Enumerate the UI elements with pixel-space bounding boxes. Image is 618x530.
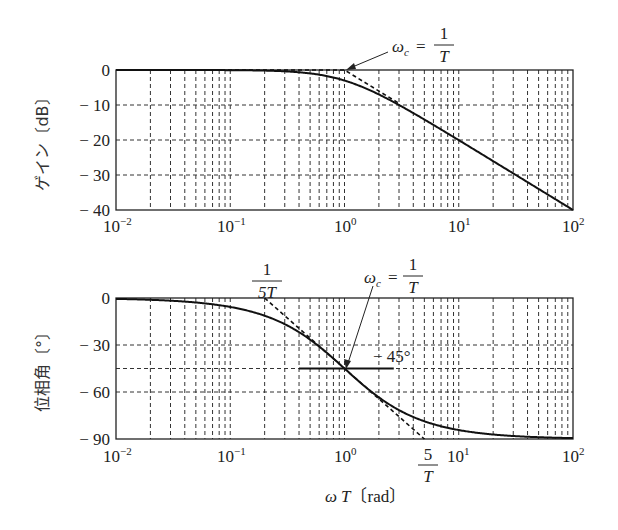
arrow-head (346, 63, 356, 70)
phase-y-axis-label: 位相角〔°〕 (33, 324, 52, 412)
gain-y-ticks: 0 − 10 − 20 − 30 − 40 (79, 61, 110, 220)
phase-x-tick-1e0: 100 (334, 445, 357, 466)
omega-c-symbol: ωc (392, 37, 409, 58)
phase-plot: 0 − 30 − 60 − 90 10−2 10−1 100 101 102 5… (33, 255, 585, 506)
equals-sign: = (416, 37, 426, 56)
phase-y-tick-30: − 30 (79, 336, 110, 355)
gain-x-tick-1e-2: 10−2 (103, 215, 132, 236)
omega-c-symbol: ωc (364, 268, 381, 289)
gain-omega-c-annotation: ωc = 1 T (346, 24, 454, 70)
five-over-T-numerator: 5 (424, 445, 433, 464)
one-over-5T-denominator: 5T (258, 283, 278, 302)
gain-plot: 0 − 10 − 20 − 30 − 40 10−2 10−1 100 101 … (33, 24, 585, 236)
fraction-numerator: 1 (440, 24, 449, 43)
arrow-head (344, 359, 351, 369)
phase-x-tick-1e-2: 10−2 (103, 445, 132, 466)
fraction-numerator: 1 (409, 255, 418, 274)
bode-plot-figure: 0 − 10 − 20 − 30 − 40 10−2 10−1 100 101 … (0, 0, 618, 530)
gain-x-tick-1e-1: 10−1 (217, 215, 246, 236)
minus45-label: − 45° (373, 347, 411, 366)
phase-x-tick-1e1: 101 (447, 445, 470, 466)
phase-x-tick-1e-1: 10−1 (217, 445, 246, 466)
gain-x-ticks: 10−2 10−1 100 101 102 (103, 215, 585, 236)
gain-x-tick-1e0: 100 (334, 215, 357, 236)
phase-x-tick-1e2: 102 (562, 445, 585, 466)
gain-y-tick-0: 0 (102, 61, 111, 80)
fraction-denominator: T (408, 278, 419, 297)
gain-y-tick-30: − 30 (79, 166, 110, 185)
phase-y-ticks: 0 − 30 − 60 − 90 (79, 289, 110, 449)
five-over-T-label: 5 T (418, 445, 438, 486)
gain-y-tick-20: − 20 (79, 131, 110, 150)
phase-y-tick-0: 0 (102, 289, 111, 308)
one-over-5T-label: 1 5T (252, 260, 282, 302)
annotation-arrow (350, 52, 388, 68)
x-axis-label: ωT〔rad〕 (325, 487, 406, 506)
phase-x-ticks: 10−2 10−1 100 101 102 (103, 445, 585, 466)
gain-grid (116, 70, 573, 210)
fraction-denominator: T (439, 47, 450, 66)
phase-y-tick-60: − 60 (79, 383, 110, 402)
equals-sign: = (388, 268, 398, 287)
gain-asymptote (116, 70, 399, 103)
gain-x-tick-1e1: 101 (448, 215, 471, 236)
one-over-5T-numerator: 1 (263, 260, 272, 279)
gain-y-tick-10: − 10 (79, 96, 110, 115)
gain-x-tick-1e2: 102 (562, 215, 585, 236)
five-over-T-denominator: T (423, 467, 434, 486)
gain-y-axis-label: ゲイン〔dB〕 (33, 89, 52, 190)
